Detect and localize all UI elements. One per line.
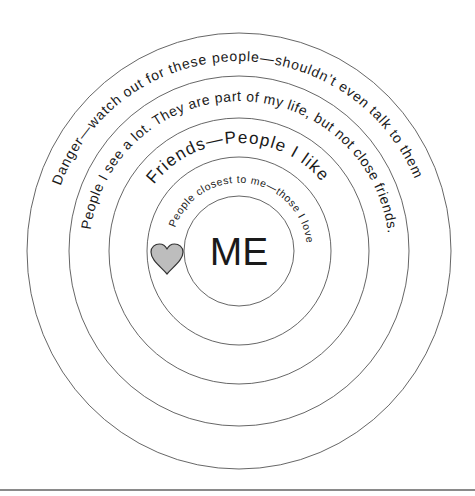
circles-of-closeness-diagram: Danger—watch out for these people—should… xyxy=(0,0,475,496)
heart-icon xyxy=(151,244,183,274)
center-label-me: ME xyxy=(210,230,269,273)
ring-label-acquaintances: People I see a lot. They are part of my … xyxy=(78,88,401,234)
bottom-rule xyxy=(0,489,475,491)
ring-label-acquaintances-text: People I see a lot. They are part of my … xyxy=(78,88,401,234)
